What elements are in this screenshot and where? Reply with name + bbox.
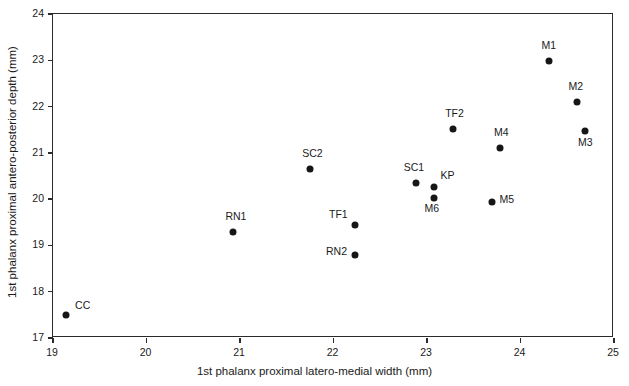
x-axis-tick <box>146 338 147 343</box>
y-axis-tick-label: 24 <box>32 8 44 19</box>
x-axis-tick <box>426 338 427 343</box>
y-axis-tick <box>48 198 53 199</box>
x-axis-tick <box>239 338 240 343</box>
x-axis-tick <box>613 338 614 343</box>
data-point-label: M2 <box>569 81 584 92</box>
data-point <box>430 184 437 191</box>
data-point <box>496 145 503 152</box>
data-point <box>430 195 437 202</box>
y-axis-tick-label: 19 <box>32 239 44 250</box>
data-point-label: M4 <box>494 127 509 138</box>
x-axis-title: 1st phalanx proximal latero-medial width… <box>0 365 629 377</box>
data-point <box>450 126 457 133</box>
y-axis-tick <box>48 60 53 61</box>
x-axis-tick <box>520 338 521 343</box>
scatter-plot-figure: CCRN1SC2TF1RN2SC1KPM6TF2M5M4M1M2M3 17181… <box>0 0 629 386</box>
x-axis-tick-label: 24 <box>514 347 526 358</box>
data-point <box>63 311 70 318</box>
data-point <box>230 228 237 235</box>
data-point-label: M5 <box>500 194 515 205</box>
y-axis-tick <box>48 245 53 246</box>
data-point <box>352 222 359 229</box>
y-axis-tick-label: 21 <box>32 147 44 158</box>
data-point-label: CC <box>75 300 90 311</box>
x-axis-tick <box>52 338 53 343</box>
data-point <box>488 199 495 206</box>
x-axis-tick-label: 22 <box>327 347 339 358</box>
data-point <box>352 252 359 259</box>
y-axis-tick-label: 22 <box>32 101 44 112</box>
data-point-label: M1 <box>542 40 557 51</box>
data-point-label: M6 <box>425 203 440 214</box>
data-point-label: TF2 <box>445 108 464 119</box>
y-axis-tick-label: 18 <box>32 286 44 297</box>
data-point <box>412 179 419 186</box>
y-axis-tick <box>48 106 53 107</box>
y-axis-tick-label: 17 <box>32 332 44 343</box>
x-axis-tick-label: 21 <box>233 347 245 358</box>
x-axis-tick-label: 19 <box>46 347 58 358</box>
x-axis-tick-label: 20 <box>140 347 152 358</box>
data-point-label: SC1 <box>404 162 424 173</box>
data-point-label: RN1 <box>225 211 246 222</box>
data-point <box>573 98 580 105</box>
data-point-label: TF1 <box>329 209 348 220</box>
data-point <box>582 127 589 134</box>
x-axis-tick <box>333 338 334 343</box>
y-axis-tick <box>48 13 53 14</box>
data-point-label: SC2 <box>302 148 322 159</box>
y-axis-tick-label: 20 <box>32 193 44 204</box>
x-axis-tick-label: 25 <box>607 347 619 358</box>
y-axis-tick <box>48 291 53 292</box>
y-axis-title: 1st phalanx proximal antero-posterior de… <box>6 7 18 337</box>
y-axis-title-wrap: 1st phalanx proximal antero-posterior de… <box>0 0 20 350</box>
data-point <box>545 58 552 65</box>
y-axis-tick-label: 23 <box>32 54 44 65</box>
data-point-label: KP <box>441 170 455 181</box>
y-axis-tick <box>48 152 53 153</box>
data-point <box>307 165 314 172</box>
plot-area: CCRN1SC2TF1RN2SC1KPM6TF2M5M4M1M2M3 <box>52 13 613 337</box>
data-point-label: RN2 <box>326 246 347 257</box>
data-point-label: M3 <box>578 137 593 148</box>
x-axis-tick-label: 23 <box>420 347 432 358</box>
